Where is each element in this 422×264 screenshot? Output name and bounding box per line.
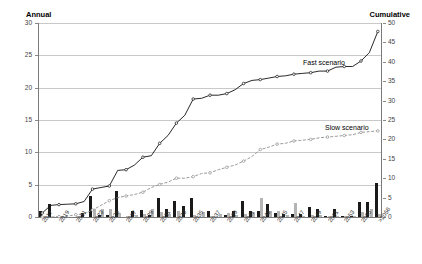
line-marker bbox=[276, 75, 279, 78]
y-tick-mark-right bbox=[383, 120, 386, 121]
line-marker bbox=[226, 166, 229, 169]
line-marker bbox=[209, 172, 212, 175]
line-marker bbox=[293, 73, 296, 76]
line-marker bbox=[192, 175, 195, 178]
line-marker bbox=[309, 138, 312, 141]
y-tick-label-left: 25 bbox=[16, 51, 32, 58]
y-tick-mark-right bbox=[383, 178, 386, 179]
y-tick-mark-right bbox=[383, 42, 386, 43]
line-marker bbox=[41, 212, 44, 215]
line-marker bbox=[91, 209, 94, 212]
line-marker bbox=[58, 203, 61, 206]
y-tick-label-right: 20 bbox=[388, 135, 406, 142]
y-tick-mark-right bbox=[383, 139, 386, 140]
y-tick-mark-right bbox=[383, 159, 386, 160]
chart-container: Annual Cumulative 051015202530 051015202… bbox=[0, 0, 422, 264]
line-marker bbox=[377, 130, 380, 133]
line-marker bbox=[192, 98, 195, 101]
y-tick-label-right: 10 bbox=[388, 174, 406, 181]
line-marker bbox=[259, 78, 262, 81]
y-tick-label-right: 50 bbox=[388, 19, 406, 26]
line-marker bbox=[360, 60, 363, 63]
line-marker bbox=[175, 122, 178, 125]
line-marker bbox=[226, 92, 229, 95]
line-marker bbox=[158, 183, 161, 186]
line-marker bbox=[360, 131, 363, 134]
right-axis-title: Cumulative bbox=[370, 10, 410, 19]
line-marker bbox=[242, 82, 245, 85]
y-tick-label-right: 40 bbox=[388, 58, 406, 65]
y-tick-label-right: 45 bbox=[388, 38, 406, 45]
y-tick-label-right: 30 bbox=[388, 97, 406, 104]
line-marker bbox=[108, 199, 111, 202]
line-marker bbox=[108, 185, 111, 188]
line-marker bbox=[158, 142, 161, 145]
y-tick-label-left: 10 bbox=[16, 148, 32, 155]
line-marker bbox=[309, 71, 312, 74]
y-tick-label-left: 20 bbox=[16, 84, 32, 91]
y-tick-label-left: 5 bbox=[16, 181, 32, 188]
y-tick-label-right: 0 bbox=[388, 213, 406, 220]
line-marker bbox=[75, 203, 78, 206]
annotation-label: Fast scenario bbox=[303, 59, 345, 66]
line-marker bbox=[293, 140, 296, 143]
y-tick-label-right: 25 bbox=[388, 116, 406, 123]
line-marker bbox=[326, 136, 329, 139]
line-marker bbox=[175, 177, 178, 180]
y-tick-mark-right bbox=[383, 62, 386, 63]
left-axis-title: Annual bbox=[26, 10, 51, 19]
line-marker bbox=[343, 134, 346, 137]
y-tick-label-left: 0 bbox=[16, 213, 32, 220]
plot-area bbox=[38, 23, 382, 217]
y-tick-mark-right bbox=[383, 101, 386, 102]
line-marker bbox=[125, 168, 128, 171]
line-marker bbox=[259, 148, 262, 151]
y-tick-label-right: 35 bbox=[388, 77, 406, 84]
y-tick-label-right: 5 bbox=[388, 194, 406, 201]
y-tick-label-right: 15 bbox=[388, 155, 406, 162]
line-marker bbox=[242, 160, 245, 163]
line-marker bbox=[377, 30, 380, 33]
y-tick-mark-right bbox=[383, 23, 386, 24]
line-marker bbox=[91, 188, 94, 191]
annotation-label: Slow scenario bbox=[325, 124, 369, 131]
y-tick-label-left: 15 bbox=[16, 116, 32, 123]
line-marker bbox=[142, 156, 145, 159]
y-tick-mark-right bbox=[383, 81, 386, 82]
line-marker bbox=[326, 70, 329, 73]
y-tick-label-left: 30 bbox=[16, 19, 32, 26]
line-marker bbox=[209, 94, 212, 97]
line-marker bbox=[142, 191, 145, 194]
y-tick-mark-right bbox=[383, 198, 386, 199]
line-marker bbox=[276, 143, 279, 146]
lines-layer bbox=[38, 23, 382, 217]
line-marker bbox=[125, 195, 128, 198]
